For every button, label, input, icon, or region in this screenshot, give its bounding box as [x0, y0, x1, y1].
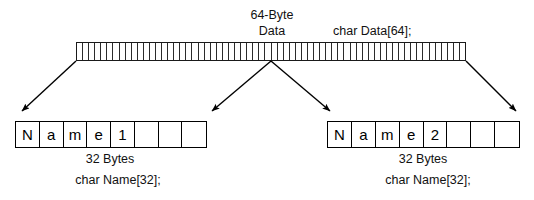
- field-row-name2: Name2: [327, 121, 520, 148]
- char-cell: 2: [424, 122, 448, 147]
- memory-layout-diagram: 64-Byte Data char Data[64]; Name1 32 Byt…: [0, 0, 534, 200]
- arrow-strip-mid-to-name1-end: [212, 61, 271, 111]
- name1-size-label: 32 Bytes: [86, 152, 135, 167]
- empty-cell: [471, 122, 495, 147]
- arrow-strip-start-to-name1-start: [22, 61, 76, 111]
- field-row-name1: Name1: [15, 121, 207, 148]
- data-strip-declaration: char Data[64];: [333, 24, 412, 39]
- byte-strip-64: [76, 42, 466, 61]
- char-cell: N: [16, 122, 40, 147]
- name2-size-label: 32 Bytes: [399, 152, 448, 167]
- empty-cell: [182, 122, 206, 147]
- char-cell: N: [328, 122, 352, 147]
- char-cell: m: [64, 122, 88, 147]
- char-cell: m: [376, 122, 400, 147]
- arrow-strip-end-to-name2-end: [466, 61, 516, 111]
- arrow-strip-mid-to-name2-start: [271, 61, 330, 111]
- empty-cell: [447, 122, 471, 147]
- data-strip-label-line1: 64-Byte: [250, 8, 293, 23]
- empty-cell: [159, 122, 183, 147]
- name2-declaration: char Name[32];: [385, 173, 470, 188]
- char-cell: e: [87, 122, 111, 147]
- char-cell: a: [40, 122, 64, 147]
- byte-cell: [460, 43, 465, 60]
- empty-cell: [135, 122, 159, 147]
- empty-cell: [495, 122, 519, 147]
- name1-declaration: char Name[32];: [75, 173, 160, 188]
- char-cell: e: [400, 122, 424, 147]
- data-strip-label-line2: Data: [259, 24, 285, 39]
- char-cell: a: [352, 122, 376, 147]
- char-cell: 1: [111, 122, 135, 147]
